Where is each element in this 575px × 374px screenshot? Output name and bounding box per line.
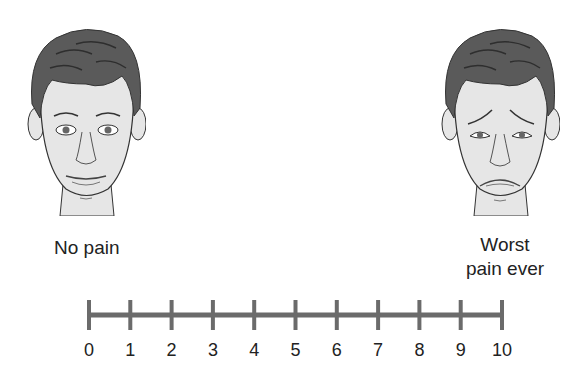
tick-label-10: 10 <box>487 339 517 361</box>
distressed-face-icon <box>440 24 560 216</box>
tick-label-0: 0 <box>74 339 104 361</box>
tick-label-9: 9 <box>446 339 476 361</box>
tick-label-1: 1 <box>115 339 145 361</box>
tick-label-4: 4 <box>239 339 269 361</box>
worst-pain-label-line-1: Worst <box>445 233 565 257</box>
calm-face-icon <box>26 24 146 216</box>
tick-label-8: 8 <box>404 339 434 361</box>
no-pain-face <box>26 24 146 216</box>
tick-label-3: 3 <box>198 339 228 361</box>
pain-scale <box>0 290 575 374</box>
worst-pain-face <box>440 24 560 216</box>
scale-line <box>0 290 575 374</box>
worst-pain-label-line-2: pain ever <box>445 257 565 281</box>
tick-label-6: 6 <box>322 339 352 361</box>
no-pain-label: No pain <box>54 236 120 260</box>
worst-pain-label: Worst pain ever <box>445 233 565 281</box>
tick-label-2: 2 <box>157 339 187 361</box>
tick-label-7: 7 <box>363 339 393 361</box>
tick-label-5: 5 <box>281 339 311 361</box>
